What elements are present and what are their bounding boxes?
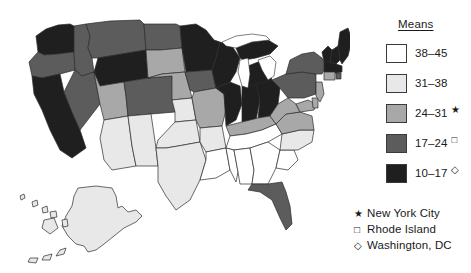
us-choropleth-map [0,0,350,273]
footnote-washington-dc: ◇ Washington, DC [354,239,471,255]
state-oregon [29,52,75,78]
legend-title: Means [398,18,434,30]
legend-row-31-38: 31–38 [386,72,471,94]
legend-label-38-45: 38–45 [415,47,447,59]
legend-swatch-31-38 [386,74,407,93]
lake-michigan [238,58,250,88]
legend-label-10-17: 10–17 [415,167,447,179]
state-north-dakota [144,24,182,50]
legend-swatch-38-45 [386,44,407,63]
map-legend: Means 38–45 31–38 24–31 ★ 17–24 □ 10–17 … [352,0,471,273]
map-svg [0,0,350,273]
legend-row-24-31: 24–31 ★ [386,102,471,124]
footnote-label-new-york-city: New York City [367,207,440,219]
state-new-york [286,52,326,74]
state-florida [248,182,292,230]
state-texas [156,142,206,210]
legend-row-10-17: 10–17 ◇ [386,162,471,184]
star-marker-icon: ★ [354,208,367,219]
state-arkansas [200,126,226,152]
star-marker-icon: ★ [451,105,460,115]
state-missouri [192,88,226,128]
square-marker-icon: □ [451,135,457,145]
state-delaware [312,98,318,108]
state-georgia [250,142,280,184]
state-louisiana [200,148,230,180]
state-rhode-island [336,73,341,79]
legend-label-24-31: 24–31 [415,107,447,119]
diamond-marker-icon: ◇ [451,165,459,175]
figure-root: Means 38–45 31–38 24–31 ★ 17–24 □ 10–17 … [0,0,471,273]
square-marker-icon: □ [354,224,367,235]
footnote-label-rhode-island: Rhode Island [367,223,436,235]
legend-row-38-45: 38–45 [386,42,471,64]
legend-row-17-24: 17–24 □ [386,132,471,154]
state-south-carolina [276,150,298,170]
legend-swatch-10-17 [386,164,407,183]
legend-swatch-17-24 [386,134,407,153]
legend-label-31-38: 31–38 [415,77,447,89]
legend-swatch-24-31 [386,104,407,123]
footnote-rhode-island: □ Rhode Island [354,223,471,239]
footnote-label-washington-dc: Washington, DC [367,239,452,251]
state-maine [338,28,350,64]
state-washington [36,24,75,55]
legend-footnotes: ★ New York City □ Rhode Island ◇ Washing… [354,207,471,255]
legend-label-17-24: 17–24 [415,137,447,149]
state-connecticut [324,72,335,80]
footnote-new-york-city: ★ New York City [354,207,471,223]
state-hawaii [20,194,68,234]
diamond-marker-icon: ◇ [354,240,367,251]
state-colorado [124,76,175,116]
